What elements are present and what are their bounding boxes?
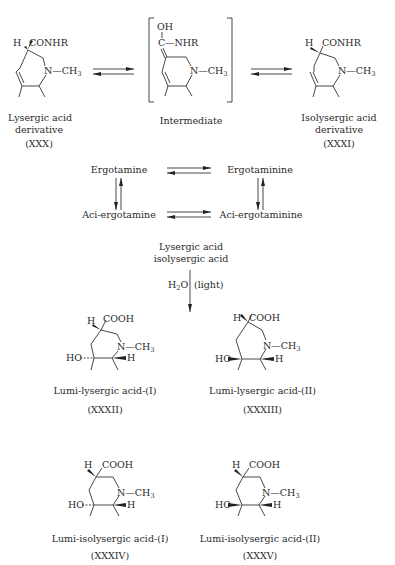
subscript: 3 <box>295 492 299 500</box>
reactant-label: Lysergic acid isolysergic acid <box>145 241 237 265</box>
reaction-condition: (light) <box>194 280 224 290</box>
xxxiii-cooh-group: COOH <box>249 313 280 323</box>
xxxii-name: Lumi-lysergic acid-(I) <box>40 385 170 397</box>
xxxi-conhr-group: CONHR <box>322 38 361 48</box>
xxxiv-h-atom: H <box>84 460 92 470</box>
intermediate-n-methyl: N—CH3 <box>190 66 228 79</box>
n-ch-label: N—CH <box>44 65 77 76</box>
xxxiv-cooh-group: COOH <box>102 460 133 470</box>
xxxii-h-atom: H <box>87 316 95 326</box>
xxxi-name-line1: Isolysergic acid <box>298 112 380 124</box>
reagent-o: O <box>180 279 188 290</box>
xxx-name: Lysergic acid derivative <box>8 112 70 136</box>
xxxi-h-atom: H <box>305 38 313 48</box>
xxxiv-n-methyl: N—CH3 <box>117 488 155 501</box>
xxxiii-name: Lumi-lysergic acid-(II) <box>200 385 325 397</box>
xxxii-cooh-group: COOH <box>103 314 134 324</box>
xxxii-ho-group: HO <box>66 353 82 363</box>
subscript: 3 <box>150 346 154 354</box>
ergotaminine-label: Ergotaminine <box>220 164 300 176</box>
xxxii-n-methyl: N—CH3 <box>117 342 155 355</box>
intermediate-oh: OH <box>157 22 173 32</box>
xxxi-compound-id: (XXXI) <box>298 138 380 150</box>
xxxiv-compound-id: (XXXIV) <box>45 550 175 562</box>
ergotamine-label: Ergotamine <box>88 164 150 176</box>
xxxv-name: Lumi-isolysergic acid-(II) <box>195 533 325 545</box>
reagent-water: H2O <box>168 280 188 293</box>
structure-xxx-bonds <box>16 40 46 97</box>
xxxv-ho-group: HO <box>215 500 231 510</box>
xxxv-h2-atom: H <box>273 500 281 510</box>
n-ch-label: N—CH <box>262 487 295 498</box>
xxx-name-line2: derivative <box>8 124 70 136</box>
n-ch-label: N—CH <box>338 65 371 76</box>
xxxii-h2-atom: H <box>127 353 135 363</box>
aci-ergotaminine-label: Aci-ergotaminine <box>214 209 308 221</box>
intermediate-name: Intermediate <box>150 115 232 127</box>
xxxii-compound-id: (XXXII) <box>40 404 170 416</box>
xxxv-cooh-group: COOH <box>249 460 280 470</box>
subscript: 3 <box>296 345 300 353</box>
aci-ergotamine-label: Aci-ergotamine <box>76 209 162 221</box>
subscript: 3 <box>223 70 227 78</box>
xxxiii-compound-id: (XXXIII) <box>200 404 325 416</box>
intermediate-nhr: —NHR <box>165 38 198 48</box>
xxxv-compound-id: (XXXV) <box>195 550 325 562</box>
xxxiv-h2-atom: H <box>127 500 135 510</box>
xxxv-h-atom: H <box>232 460 240 470</box>
xxx-name-line1: Lysergic acid <box>8 112 70 124</box>
subscript: 3 <box>77 70 81 78</box>
xxxi-name-line2: derivative <box>298 124 380 136</box>
xxx-h-atom: H <box>13 38 21 48</box>
xxxiii-h2-atom: H <box>275 354 283 364</box>
reactant-line1: Lysergic acid <box>145 241 237 253</box>
subscript: 3 <box>371 70 375 78</box>
xxxiv-ho-group: HO <box>68 500 84 510</box>
xxxiii-h-atom: H <box>233 313 241 323</box>
xxxi-name: Isolysergic acid derivative <box>298 112 380 136</box>
xxxi-n-methyl: N—CH3 <box>338 66 376 79</box>
structure-xxxi-bonds <box>310 46 340 97</box>
equilibrium-arrows-1 <box>93 67 134 76</box>
xxxiv-name: Lumi-isolysergic acid-(I) <box>45 533 175 545</box>
xxx-compound-id: (XXX) <box>8 138 70 150</box>
xxx-conhr-group: CONHR <box>29 38 68 48</box>
n-ch-label: N—CH <box>117 487 150 498</box>
xxxiii-ho-group: HO <box>215 354 231 364</box>
xxx-n-methyl: N—CH3 <box>44 66 82 79</box>
equilibrium-arrows-2 <box>251 67 292 76</box>
reaction-arrow <box>188 270 192 312</box>
n-ch-label: N—CH <box>263 340 296 351</box>
n-ch-label: N—CH <box>117 341 150 352</box>
subscript: 3 <box>150 492 154 500</box>
reactant-line2: isolysergic acid <box>145 253 237 265</box>
n-ch-label: N—CH <box>190 65 223 76</box>
